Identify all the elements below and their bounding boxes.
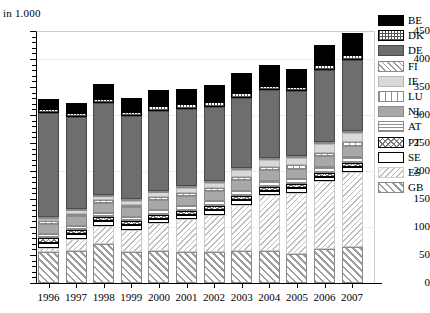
legend-item-FI[interactable]: FI (378, 60, 430, 75)
bar-segment-GB[interactable] (121, 252, 142, 283)
bar-segment-GB[interactable] (93, 244, 114, 283)
bar-segment-AT[interactable] (66, 226, 87, 230)
bar-segment-PT[interactable] (66, 230, 87, 234)
bar-segment-DE[interactable] (66, 117, 87, 208)
bar-segment-GB[interactable] (231, 251, 252, 283)
bar-segment-LU[interactable] (66, 214, 87, 217)
bar-segment-GB[interactable] (148, 251, 169, 283)
legend-item-PT[interactable]: PT (378, 136, 430, 151)
bar-segment-FI[interactable] (66, 209, 87, 211)
legend-item-ES[interactable]: ES (378, 166, 430, 181)
bar-segment-BE[interactable] (286, 69, 307, 87)
bar-segment-NL[interactable] (93, 203, 114, 213)
bar-segment-FI[interactable] (231, 168, 252, 170)
bar-segment-ES[interactable] (38, 248, 59, 252)
bar-segment-PT[interactable] (259, 187, 280, 191)
bar-segment-GB[interactable] (38, 252, 59, 283)
bar-segment-AT[interactable] (148, 210, 169, 215)
bar-segment-SE[interactable] (204, 210, 225, 214)
bar-segment-ES[interactable] (231, 205, 252, 251)
legend-item-AT[interactable]: AT (378, 120, 430, 135)
bar-segment-LU[interactable] (314, 153, 335, 156)
bar-segment-FI[interactable] (314, 142, 335, 144)
bar-segment-BE[interactable] (314, 45, 335, 65)
legend-item-NL[interactable]: NL (378, 105, 430, 120)
bar-segment-IE[interactable] (286, 158, 307, 165)
bar-segment-LU[interactable] (148, 197, 169, 200)
bar-segment-BE[interactable] (204, 85, 225, 102)
bar-segment-LU[interactable] (121, 205, 142, 208)
bar-segment-DE[interactable] (231, 98, 252, 168)
bar-segment-DK[interactable] (148, 106, 169, 110)
bar-segment-LU[interactable] (259, 167, 280, 170)
bar-segment-LU[interactable] (231, 177, 252, 180)
bar-segment-PT[interactable] (121, 221, 142, 225)
bar-2006[interactable] (314, 31, 335, 283)
bar-segment-IE[interactable] (314, 144, 335, 152)
bar-segment-ES[interactable] (314, 181, 335, 249)
bar-segment-FI[interactable] (176, 186, 197, 188)
bar-segment-DK[interactable] (342, 55, 363, 60)
bar-segment-PT[interactable] (231, 196, 252, 200)
legend-item-DE[interactable]: DE (378, 44, 430, 59)
bar-segment-GB[interactable] (259, 251, 280, 283)
bar-segment-SE[interactable] (259, 191, 280, 195)
bar-segment-FI[interactable] (93, 195, 114, 197)
bar-segment-GB[interactable] (342, 247, 363, 283)
bar-segment-LU[interactable] (286, 165, 307, 168)
bar-segment-IE[interactable] (121, 201, 142, 205)
bar-segment-BE[interactable] (38, 99, 59, 109)
bar-segment-AT[interactable] (38, 234, 59, 238)
bar-segment-IE[interactable] (204, 183, 225, 189)
legend-item-SE[interactable]: SE (378, 151, 430, 166)
bar-segment-FI[interactable] (342, 131, 363, 133)
bar-segment-BE[interactable] (342, 33, 363, 55)
bar-segment-DK[interactable] (204, 102, 225, 106)
bar-segment-DE[interactable] (148, 111, 169, 191)
bar-segment-NL[interactable] (148, 200, 169, 210)
bar-segment-GB[interactable] (176, 252, 197, 283)
bar-segment-SE[interactable] (38, 243, 59, 249)
bar-1999[interactable] (121, 31, 142, 283)
bar-segment-BE[interactable] (121, 98, 142, 111)
bar-segment-SE[interactable] (93, 221, 114, 225)
bar-segment-SE[interactable] (176, 215, 197, 219)
bar-segment-AT[interactable] (176, 206, 197, 211)
bar-segment-PT[interactable] (93, 217, 114, 221)
bar-segment-GB[interactable] (314, 249, 335, 283)
bar-segment-PT[interactable] (38, 238, 59, 242)
bar-segment-NL[interactable] (66, 216, 87, 226)
bar-segment-DE[interactable] (314, 70, 335, 142)
bar-segment-BE[interactable] (231, 73, 252, 93)
bar-segment-AT[interactable] (231, 191, 252, 197)
bar-segment-AT[interactable] (121, 217, 142, 221)
bar-segment-DE[interactable] (342, 60, 363, 131)
bar-segment-SE[interactable] (121, 225, 142, 229)
bar-segment-NL[interactable] (314, 156, 335, 167)
bar-segment-SE[interactable] (342, 167, 363, 171)
bar-segment-ES[interactable] (176, 219, 197, 251)
bar-segment-FI[interactable] (286, 156, 307, 158)
bar-segment-SE[interactable] (66, 234, 87, 238)
bar-segment-DE[interactable] (176, 109, 197, 186)
bar-2003[interactable] (231, 31, 252, 283)
bar-segment-ES[interactable] (204, 215, 225, 252)
legend-item-GB[interactable]: GB (378, 181, 430, 196)
bar-segment-DK[interactable] (66, 113, 87, 117)
bar-segment-GB[interactable] (66, 251, 87, 283)
bar-segment-AT[interactable] (342, 157, 363, 163)
bar-segment-DE[interactable] (204, 107, 225, 181)
bar-segment-ES[interactable] (121, 230, 142, 252)
bar-segment-IE[interactable] (66, 210, 87, 213)
bar-segment-BE[interactable] (148, 90, 169, 106)
bar-segment-IE[interactable] (342, 133, 363, 143)
bar-segment-NL[interactable] (121, 207, 142, 217)
bar-segment-IE[interactable] (38, 219, 59, 222)
bar-segment-PT[interactable] (204, 206, 225, 210)
legend-item-LU[interactable]: LU (378, 90, 430, 105)
bar-segment-SE[interactable] (286, 188, 307, 192)
bar-segment-PT[interactable] (176, 211, 197, 215)
bar-segment-NL[interactable] (38, 224, 59, 234)
bar-segment-NL[interactable] (231, 180, 252, 191)
bar-segment-NL[interactable] (176, 196, 197, 206)
